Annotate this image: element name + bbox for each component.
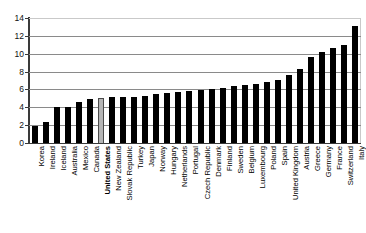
bar <box>109 97 115 143</box>
x-tick-label: Hungary <box>170 146 178 175</box>
bar <box>242 85 248 143</box>
bar <box>54 107 60 143</box>
x-tick-label: Netherlands <box>181 146 189 187</box>
bar <box>286 75 292 143</box>
y-tick-label-2: 2 <box>19 121 24 130</box>
x-tick-label: Finland <box>226 146 234 171</box>
bar <box>131 97 137 143</box>
bar <box>43 122 49 143</box>
bar <box>142 96 148 143</box>
bar <box>164 93 170 143</box>
x-axis-category-labels: KoreaIrelandIcelandAustraliaMexicoCanada… <box>29 146 361 232</box>
bar <box>76 102 82 143</box>
x-tick-label: Germany <box>325 146 333 177</box>
bar <box>209 89 215 143</box>
x-tick-label: Greece <box>314 146 322 171</box>
x-tick-label: Turkey <box>137 146 145 169</box>
bar <box>319 52 325 143</box>
x-tick-label: Ireland <box>49 146 57 169</box>
x-tick-label: Spain <box>281 146 289 165</box>
bar <box>87 99 93 143</box>
x-tick-label: Korea <box>38 146 46 166</box>
x-tick-label: Luxembourg <box>259 146 267 188</box>
y-tick-mark-0 <box>25 143 29 144</box>
bar <box>264 82 270 143</box>
bar <box>65 107 71 143</box>
x-tick-label: New Zealand <box>115 146 123 191</box>
bar <box>308 57 314 143</box>
x-tick-label: Canada <box>93 146 101 173</box>
bar-series <box>29 18 361 143</box>
x-tick-label: Australia <box>71 146 79 176</box>
plot-area: 02468101214 <box>29 18 361 143</box>
x-tick-label: Mexico <box>82 146 90 170</box>
y-tick-label-4: 4 <box>19 103 24 112</box>
y-tick-label-10: 10 <box>15 49 24 58</box>
y-tick-label-14: 14 <box>15 14 24 23</box>
x-tick-label: Italy <box>358 146 366 160</box>
x-tick-label: Japan <box>148 146 156 167</box>
y-tick-label-6: 6 <box>19 85 24 94</box>
bar <box>253 84 259 143</box>
y-tick-label-12: 12 <box>15 32 24 41</box>
x-tick-label: Belgium <box>248 146 256 173</box>
bar <box>220 88 226 143</box>
x-tick-label: Switzerland <box>347 146 355 185</box>
x-tick-label: France <box>336 146 344 170</box>
bar <box>120 97 126 143</box>
bar <box>275 80 281 143</box>
x-tick-label: United States <box>104 146 112 195</box>
x-tick-label: Austria <box>303 146 311 170</box>
x-tick-label: Norway <box>159 146 167 172</box>
bar <box>32 126 38 143</box>
x-tick-label: Denmark <box>215 146 223 177</box>
y-tick-label-8: 8 <box>19 67 24 76</box>
bar <box>153 94 159 143</box>
x-tick-label: Sweden <box>237 146 245 173</box>
bar <box>175 92 181 143</box>
x-tick-label: Poland <box>270 146 278 170</box>
bar <box>98 98 104 143</box>
bar <box>186 91 192 143</box>
bar <box>341 45 347 143</box>
bar <box>297 69 303 143</box>
x-tick-label: United Kingdom <box>292 146 300 200</box>
bar <box>231 86 237 143</box>
x-tick-label: Iceland <box>60 146 68 171</box>
bar <box>352 26 358 143</box>
x-tick-label: Portugal <box>192 146 200 174</box>
x-tick-label: Slovak Republic <box>126 146 134 200</box>
y-tick-label-0: 0 <box>19 139 24 148</box>
bar <box>198 90 204 143</box>
x-tick-label: Czech Republic <box>204 146 212 199</box>
bar <box>330 48 336 143</box>
